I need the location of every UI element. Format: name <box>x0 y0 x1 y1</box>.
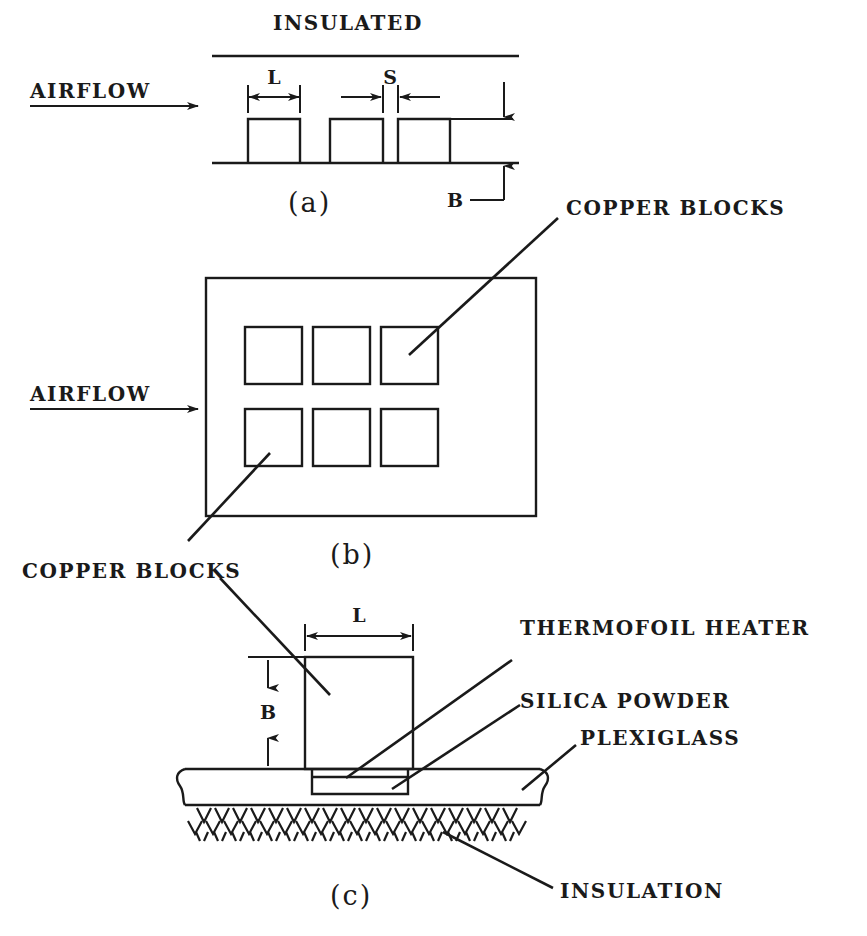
block-b-r2c3 <box>381 409 438 466</box>
dim-label-B-a: B <box>447 189 463 211</box>
dim-label-L-a: L <box>267 66 280 88</box>
block-b-r1c1 <box>245 327 302 384</box>
plexiglass-break-left <box>177 769 185 805</box>
caption-b: (b) <box>330 539 374 570</box>
copper-blocks-label-top: COPPER BLOCKS <box>566 196 785 220</box>
silica-powder-label: SILICA POWDER <box>520 689 731 713</box>
dim-label-S-a: S <box>383 66 397 88</box>
insulation-hatch <box>188 808 526 841</box>
block-b-r2c2 <box>313 409 370 466</box>
technical-diagram: L S B <box>0 0 867 936</box>
silica-powder-pocket <box>312 769 408 794</box>
copper-block-c <box>305 657 413 769</box>
leader-copper-blocks-bottom <box>188 453 270 541</box>
plexiglass-label: PLEXIGLASS <box>580 726 740 750</box>
caption-c: (c) <box>330 880 372 911</box>
leader-plexiglass <box>522 745 576 790</box>
plate-outline-b <box>206 278 536 516</box>
insulation-label: INSULATION <box>560 879 724 903</box>
insulated-label: INSULATED <box>273 11 423 35</box>
thermofoil-heater-label: THERMOFOIL HEATER <box>520 616 810 640</box>
caption-a: (a) <box>288 187 331 218</box>
leader-silica-powder <box>392 705 520 789</box>
block-b-r2c1 <box>245 409 302 466</box>
block-a-3 <box>398 119 450 163</box>
block-a-2 <box>330 119 383 163</box>
leader-insulation <box>443 832 553 888</box>
copper-blocks-label-bottom: COPPER BLOCKS <box>22 559 241 583</box>
block-b-r1c2 <box>313 327 370 384</box>
dim-label-L-c: L <box>352 604 365 626</box>
dim-label-B-c: B <box>260 701 276 723</box>
figure-canvas: L S B <box>0 0 867 936</box>
airflow-label-b: AIRFLOW <box>29 382 151 406</box>
airflow-label-a: AIRFLOW <box>29 79 151 103</box>
block-a-1 <box>248 119 300 163</box>
leader-thermofoil-heater <box>346 660 512 778</box>
